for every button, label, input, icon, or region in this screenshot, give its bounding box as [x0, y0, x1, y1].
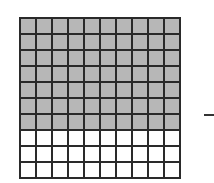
shaded-cell — [117, 83, 131, 97]
shaded-cell — [37, 67, 51, 81]
shaded-cell — [21, 67, 35, 81]
empty-cell — [149, 147, 163, 161]
shaded-cell — [117, 51, 131, 65]
shaded-cell — [149, 19, 163, 33]
shaded-cell — [101, 67, 115, 81]
empty-cell — [69, 131, 83, 145]
empty-cell — [85, 147, 99, 161]
shaded-cell — [165, 19, 179, 33]
empty-cell — [117, 131, 131, 145]
empty-cell — [165, 163, 179, 177]
shaded-cell — [85, 35, 99, 49]
empty-cell — [37, 163, 51, 177]
shaded-cell — [53, 51, 67, 65]
empty-cell — [117, 147, 131, 161]
shaded-cell — [53, 115, 67, 129]
empty-cell — [21, 147, 35, 161]
shaded-cell — [101, 83, 115, 97]
shaded-cell — [117, 115, 131, 129]
shaded-cell — [37, 51, 51, 65]
shaded-cell — [117, 67, 131, 81]
shaded-cell — [101, 19, 115, 33]
shaded-cell — [165, 35, 179, 49]
empty-cell — [37, 131, 51, 145]
shaded-cell — [117, 35, 131, 49]
empty-cell — [21, 131, 35, 145]
shaded-cell — [21, 19, 35, 33]
shaded-cell — [69, 35, 83, 49]
shaded-cell — [69, 51, 83, 65]
shaded-cell — [101, 99, 115, 113]
dash-mark — [204, 114, 214, 116]
shaded-cell — [85, 67, 99, 81]
shaded-cell — [117, 99, 131, 113]
empty-cell — [21, 163, 35, 177]
shaded-cell — [69, 19, 83, 33]
shaded-cell — [149, 35, 163, 49]
shaded-cell — [53, 83, 67, 97]
shaded-cell — [133, 115, 147, 129]
shaded-cell — [101, 35, 115, 49]
empty-cell — [69, 163, 83, 177]
empty-cell — [101, 163, 115, 177]
empty-cell — [69, 147, 83, 161]
empty-cell — [53, 147, 67, 161]
empty-cell — [133, 147, 147, 161]
shaded-cell — [85, 51, 99, 65]
shaded-cell — [21, 115, 35, 129]
shaded-cell — [165, 115, 179, 129]
shaded-cell — [69, 115, 83, 129]
shaded-cell — [69, 83, 83, 97]
hundred-grid — [19, 17, 181, 179]
shaded-cell — [53, 99, 67, 113]
shaded-cell — [165, 67, 179, 81]
empty-cell — [117, 163, 131, 177]
shaded-cell — [69, 67, 83, 81]
empty-cell — [149, 163, 163, 177]
shaded-cell — [37, 115, 51, 129]
empty-cell — [85, 163, 99, 177]
empty-cell — [101, 147, 115, 161]
empty-cell — [101, 131, 115, 145]
shaded-cell — [101, 115, 115, 129]
empty-cell — [85, 131, 99, 145]
shaded-cell — [133, 67, 147, 81]
shaded-cell — [101, 51, 115, 65]
shaded-cell — [85, 19, 99, 33]
shaded-cell — [85, 99, 99, 113]
shaded-cell — [21, 51, 35, 65]
shaded-cell — [165, 51, 179, 65]
empty-cell — [133, 131, 147, 145]
shaded-cell — [85, 115, 99, 129]
shaded-cell — [37, 35, 51, 49]
shaded-cell — [21, 83, 35, 97]
shaded-cell — [53, 35, 67, 49]
shaded-cell — [149, 67, 163, 81]
shaded-cell — [69, 99, 83, 113]
empty-cell — [149, 131, 163, 145]
empty-cell — [37, 147, 51, 161]
shaded-cell — [53, 19, 67, 33]
shaded-cell — [133, 99, 147, 113]
shaded-cell — [133, 35, 147, 49]
shaded-cell — [133, 19, 147, 33]
empty-cell — [53, 163, 67, 177]
shaded-cell — [37, 99, 51, 113]
shaded-cell — [165, 83, 179, 97]
shaded-cell — [21, 35, 35, 49]
shaded-cell — [85, 83, 99, 97]
shaded-cell — [165, 99, 179, 113]
shaded-cell — [37, 83, 51, 97]
empty-cell — [165, 147, 179, 161]
shaded-cell — [133, 83, 147, 97]
empty-cell — [53, 131, 67, 145]
shaded-cell — [53, 67, 67, 81]
shaded-cell — [117, 19, 131, 33]
shaded-cell — [37, 19, 51, 33]
shaded-cell — [149, 83, 163, 97]
shaded-cell — [149, 99, 163, 113]
shaded-cell — [149, 51, 163, 65]
empty-cell — [165, 131, 179, 145]
shaded-cell — [133, 51, 147, 65]
shaded-cell — [21, 99, 35, 113]
